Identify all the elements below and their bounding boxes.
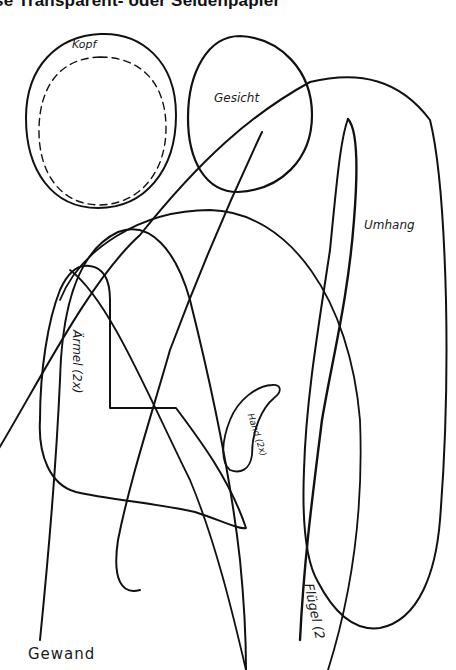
gewand-outline — [40, 229, 246, 670]
umhang-outline — [0, 77, 447, 628]
gesicht-outline — [188, 36, 312, 192]
label-kopf: Kopf — [72, 38, 96, 51]
label-gewand: Gewand — [28, 645, 95, 663]
label-gesicht: Gesicht — [214, 91, 259, 105]
label-aermel: Ärmel (2x) — [70, 330, 84, 393]
kopf-outline — [26, 34, 176, 208]
aermel-outline — [40, 266, 246, 529]
label-umhang: Umhang — [364, 218, 415, 232]
